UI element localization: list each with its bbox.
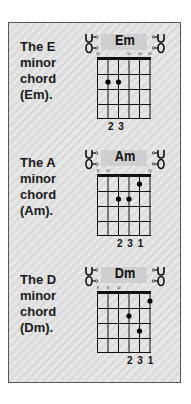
fretboard-grid [97, 57, 151, 121]
label-line: chord [20, 71, 80, 87]
string-marker-open: o [105, 167, 111, 173]
label-line: The E [20, 39, 80, 55]
finger-dot [137, 181, 142, 186]
chord-name: Dm [97, 264, 153, 281]
string-marker-open: o [116, 284, 122, 290]
string-marker-muted: x [105, 284, 111, 290]
string-marker-muted: x [95, 167, 101, 173]
string-marker-muted: x [95, 284, 101, 290]
chord-label: The E minor chord (Em). [20, 39, 80, 103]
label-line: The A [20, 155, 80, 171]
label-line: minor [20, 55, 80, 71]
finger-dot [105, 79, 110, 84]
string-marker-open: o [147, 50, 153, 56]
chord-am: The A minor chord (Am). Am x o o [9, 145, 180, 263]
string-marker-open: o [126, 50, 132, 56]
finger-dot [126, 196, 131, 201]
finger-numbers: 2 3 [108, 121, 125, 132]
finger-dot [137, 328, 142, 333]
finger-numbers: 2 3 1 [117, 238, 144, 249]
fretboard-grid [97, 291, 153, 355]
label-line: (Am). [20, 203, 80, 219]
label-line: minor [20, 171, 80, 187]
chord-dm: The D minor chord (Dm). Dm x x o [9, 262, 180, 380]
finger-dot [116, 196, 121, 201]
string-marker-open: o [95, 50, 101, 56]
tuning-peg-right-icon [149, 265, 167, 291]
finger-numbers: 2 3 1 [127, 355, 154, 366]
fretboard-grid [97, 174, 151, 238]
label-line: chord [20, 304, 80, 320]
chord-chart-panel: The E minor chord (Em). Em o o o o [8, 22, 181, 383]
label-line: chord [20, 187, 80, 203]
label-line: (Em). [20, 87, 80, 103]
label-line: minor [20, 288, 80, 304]
finger-dot [147, 298, 152, 303]
label-line: The D [20, 272, 80, 288]
string-marker-open: o [147, 167, 153, 173]
string-marker-open: o [137, 50, 143, 56]
chord-name: Am [97, 147, 153, 164]
chord-label: The A minor chord (Am). [20, 155, 80, 219]
finger-dot [116, 79, 121, 84]
chord-em: The E minor chord (Em). Em o o o o [9, 29, 180, 147]
label-line: (Dm). [20, 320, 80, 336]
chord-name: Em [97, 31, 153, 48]
finger-dot [126, 313, 131, 318]
chord-label: The D minor chord (Dm). [20, 272, 80, 336]
